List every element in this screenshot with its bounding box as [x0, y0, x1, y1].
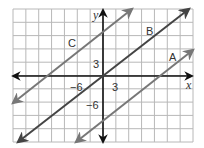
line-a-label: A: [169, 51, 177, 63]
line-b-label: B: [146, 25, 153, 37]
x-tick-label-neg6: −6: [70, 81, 83, 93]
y-axis-label: y: [92, 8, 99, 22]
y-tick-label-neg6: −6: [86, 99, 99, 111]
x-tick-label-3: 3: [112, 81, 118, 93]
coordinate-graph: −6 3 3 −6 x y C B A: [0, 0, 204, 148]
y-tick-label-3: 3: [93, 58, 99, 70]
x-axis-label: x: [185, 78, 192, 92]
line-c-label: C: [68, 37, 76, 49]
